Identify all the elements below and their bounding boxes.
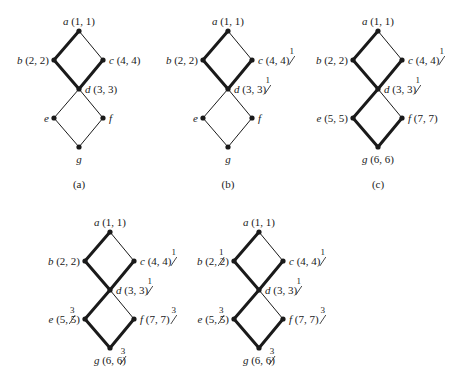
node-c [399, 57, 404, 62]
edge-a-b [353, 31, 378, 60]
node-a [76, 28, 81, 33]
edge-b-d [234, 261, 259, 290]
node-e [82, 316, 87, 321]
edge-e-g [353, 118, 378, 147]
node-e [200, 115, 205, 120]
node-label-b: b (2, 2) [17, 54, 49, 67]
strike-mark-f [171, 315, 177, 324]
edge-d-e [85, 290, 110, 319]
revised-value-f: 3 [321, 305, 326, 315]
panel-b: a (1, 1)b (2, 2)c (4, 4)1d (3, 3)1efg(b) [166, 15, 295, 191]
edge-e-g [54, 118, 79, 147]
node-a [375, 28, 380, 33]
node-c [280, 258, 285, 263]
revised-value-d: 1 [416, 75, 421, 85]
edge-b-d [203, 60, 228, 89]
panel-e: a (1, 1)b (2, 2)1c (4, 4)1d (3, 3)1e (5,… [197, 216, 326, 367]
strike-mark-c [320, 257, 326, 266]
node-label-b: b (2, 2) [48, 255, 80, 268]
edge-d-e [203, 89, 228, 118]
node-label-e: e (5, 5) [49, 313, 81, 326]
edge-a-b [54, 31, 79, 60]
node-c [131, 258, 136, 263]
node-label-c: c (4, 4) [109, 54, 141, 67]
node-label-a: a (1, 1) [63, 15, 95, 28]
edge-a-c [110, 232, 134, 261]
node-label-d: d (3, 3) [265, 284, 297, 297]
node-label-b: b (2, 2) [166, 54, 198, 67]
lattice-diagrams: a (1, 1)b (2, 2)c (4, 4)d (3, 3)efg(a)a … [0, 0, 454, 381]
node-label-e: e (5, 5) [198, 313, 230, 326]
revised-value-c: 1 [290, 46, 295, 56]
edge-d-e [54, 89, 79, 118]
edge-a-b [234, 232, 259, 261]
edge-a-b [203, 31, 228, 60]
node-d [256, 287, 261, 292]
node-b [231, 258, 236, 263]
node-a [256, 229, 261, 234]
strike-mark-f [320, 315, 326, 324]
edge-b-d [85, 261, 110, 290]
node-d [76, 86, 81, 91]
strike-mark-c [289, 56, 295, 65]
node-g [375, 144, 380, 149]
node-label-f: f (7, 7) [140, 313, 170, 326]
edge-e-g [85, 319, 110, 348]
node-e [350, 115, 355, 120]
node-label-g: g [225, 153, 231, 165]
strike-mark-c [439, 56, 445, 65]
node-label-f: f (7, 7) [289, 313, 319, 326]
revised-value-f: 3 [172, 305, 177, 315]
revised-value-c: 1 [321, 247, 326, 257]
node-label-c: c (4, 4) [258, 54, 290, 67]
node-d [375, 86, 380, 91]
node-c [249, 57, 254, 62]
node-b [200, 57, 205, 62]
revised-value-d: 1 [148, 276, 153, 286]
node-b [51, 57, 56, 62]
node-label-e: e [44, 112, 49, 124]
node-label-f: f [109, 112, 114, 124]
node-label-b: b (2, 2) [316, 54, 348, 67]
node-label-c: c (4, 4) [408, 54, 440, 67]
node-e [231, 316, 236, 321]
node-label-g: g (6, 6) [362, 153, 394, 166]
node-label-d: d (3, 3) [116, 284, 148, 297]
edge-f-g [259, 319, 283, 348]
node-label-d: d (3, 3) [384, 83, 416, 96]
edge-b-d [54, 60, 79, 89]
node-label-a: a (1, 1) [362, 15, 394, 28]
edge-e-g [234, 319, 259, 348]
node-b [82, 258, 87, 263]
node-label-e: e (5, 5) [317, 112, 349, 125]
node-a [107, 229, 112, 234]
revised-value-e: 3 [70, 305, 75, 315]
node-a [225, 28, 230, 33]
edge-b-d [353, 60, 378, 89]
node-label-b: b (2, 2) [197, 255, 229, 268]
edge-a-c [259, 232, 283, 261]
edge-a-c [228, 31, 252, 60]
node-f [280, 316, 285, 321]
node-label-f: f (7, 7) [408, 112, 438, 125]
panel-a: a (1, 1)b (2, 2)c (4, 4)d (3, 3)efg(a) [17, 15, 141, 191]
revised-value-c: 1 [440, 46, 445, 56]
node-label-d: d (3, 3) [85, 83, 117, 96]
caption-b: (b) [222, 178, 235, 191]
caption-a: (a) [73, 178, 86, 191]
revised-value-g: 3 [270, 346, 275, 356]
revised-value-c: 1 [172, 247, 177, 257]
caption-c: (c) [372, 178, 385, 191]
edge-e-g [203, 118, 228, 147]
node-e [51, 115, 56, 120]
edge-f-g [228, 118, 252, 147]
node-g [76, 144, 81, 149]
node-label-f: f [258, 112, 263, 124]
revised-value-d: 1 [266, 75, 271, 85]
revised-value-e: 3 [219, 305, 224, 315]
node-label-e: e [193, 112, 198, 124]
revised-value-d: 1 [297, 276, 302, 286]
edge-d-e [353, 89, 378, 118]
edge-d-e [234, 290, 259, 319]
node-f [249, 115, 254, 120]
